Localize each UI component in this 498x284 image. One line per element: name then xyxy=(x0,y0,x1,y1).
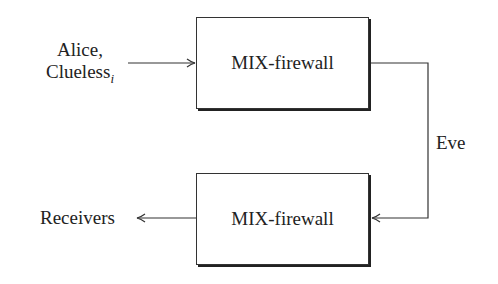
input-label-line1: Alice, xyxy=(30,39,130,61)
mix-firewall-label: MIX-firewall xyxy=(231,208,333,230)
clueless-text: Clueless xyxy=(46,61,110,82)
mix-firewall-node-bottom: MIX-firewall xyxy=(196,173,369,265)
clueless-subscript: i xyxy=(110,71,114,86)
receivers-label: Receivers xyxy=(40,207,115,229)
eve-channel-arrow xyxy=(371,63,428,218)
eve-label: Eve xyxy=(436,132,466,154)
input-label: Alice, Cluelessi xyxy=(30,39,130,90)
mix-firewall-label: MIX-firewall xyxy=(231,52,333,74)
mix-firewall-node-top: MIX-firewall xyxy=(196,17,369,109)
input-label-line2: Cluelessi xyxy=(30,61,130,90)
